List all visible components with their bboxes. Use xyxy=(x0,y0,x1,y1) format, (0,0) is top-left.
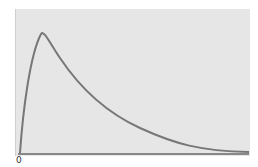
x-tick-label: 0 xyxy=(16,155,22,165)
series-line xyxy=(20,33,249,153)
line-chart xyxy=(0,0,258,167)
